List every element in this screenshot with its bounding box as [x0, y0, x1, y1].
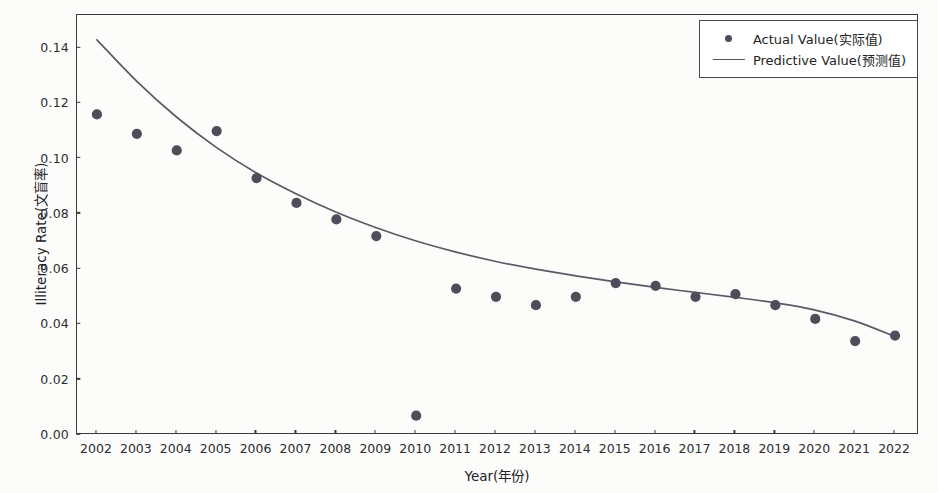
x-axis-tick-mark [335, 430, 336, 434]
data-point [92, 109, 102, 119]
x-axis-label: Year(年份) [76, 465, 918, 485]
data-point [850, 336, 860, 346]
x-axis-tick: 2005 [200, 434, 232, 456]
x-axis-tick: 2013 [519, 434, 551, 456]
x-axis-tick-label: 2011 [439, 441, 471, 456]
x-axis-tick: 2015 [599, 434, 631, 456]
data-point [611, 278, 621, 288]
x-axis-tick-mark [654, 430, 655, 434]
x-axis-tick-label: 2016 [639, 441, 671, 456]
data-point [531, 300, 541, 310]
x-axis-tick-label: 2017 [679, 441, 711, 456]
x-axis-tick: 2016 [639, 434, 671, 456]
x-axis-tick: 2003 [120, 434, 152, 456]
x-axis-tick-label: 2020 [798, 441, 830, 456]
x-axis-tick: 2009 [359, 434, 391, 456]
data-point [212, 126, 222, 136]
y-axis-tick-mark [76, 212, 80, 213]
x-axis-tick: 2008 [319, 434, 351, 456]
y-axis-tick-mark [76, 378, 80, 379]
x-axis-tick-mark [893, 430, 894, 434]
legend-label-actual-value: Actual Value(实际值) [749, 29, 883, 48]
chart-canvas [77, 15, 919, 435]
legend-label-predictive-value: Predictive Value(预测值) [749, 50, 906, 69]
y-axis-tick-mark [76, 157, 80, 158]
data-point [571, 292, 581, 302]
x-axis-tick-label: 2019 [758, 441, 790, 456]
data-point [690, 292, 700, 302]
x-axis-tick: 2010 [399, 434, 431, 456]
x-axis-tick: 2002 [80, 434, 112, 456]
line-marker-icon [709, 59, 749, 61]
x-axis-tick: 2004 [160, 434, 192, 456]
data-point [491, 292, 501, 302]
data-point [810, 314, 820, 324]
data-point [172, 145, 182, 155]
x-axis-tick: 2007 [280, 434, 312, 456]
data-point [371, 231, 381, 241]
x-axis-tick: 2022 [878, 434, 910, 456]
x-axis-tick-mark [215, 430, 216, 434]
x-axis-tick-label: 2015 [599, 441, 631, 456]
x-axis-tick: 2011 [439, 434, 471, 456]
x-axis-tick-label: 2006 [240, 441, 272, 456]
x-axis-tick-label: 2018 [719, 441, 751, 456]
legend-item-actual-value: Actual Value(实际值) [709, 28, 906, 49]
legend-item-predictive-value: Predictive Value(预测值) [709, 49, 906, 70]
x-axis-tick: 2017 [679, 434, 711, 456]
chart-figure: 0.000.020.040.060.080.100.120.14 2002200… [0, 0, 938, 493]
x-axis-tick-mark [853, 430, 854, 434]
x-axis-tick-label: 2004 [160, 441, 192, 456]
x-axis-tick-label: 2022 [878, 441, 910, 456]
x-axis-tick: 2019 [758, 434, 790, 456]
actual-value-points [92, 109, 900, 420]
y-axis-tick-mark [76, 102, 80, 103]
x-axis-tick-mark [255, 430, 256, 434]
data-point [132, 129, 142, 139]
x-axis-tick-label: 2013 [519, 441, 551, 456]
x-axis-tick: 2006 [240, 434, 272, 456]
x-axis-tick-label: 2010 [399, 441, 431, 456]
x-axis-tick-mark [774, 430, 775, 434]
y-axis-label: Illiteracy Rate(文盲率) [30, 24, 50, 444]
y-axis-tick-mark [76, 268, 80, 269]
x-axis-tick: 2020 [798, 434, 830, 456]
x-axis-tick-label: 2014 [559, 441, 591, 456]
data-point [331, 214, 341, 224]
x-axis-tick-mark [295, 430, 296, 434]
x-axis-tick-mark [814, 430, 815, 434]
x-axis-tick-label: 2007 [280, 441, 312, 456]
data-point [651, 281, 661, 291]
x-axis-tick-mark [494, 430, 495, 434]
x-axis-tick-mark [694, 430, 695, 434]
scatter-marker-icon [709, 35, 749, 42]
x-axis-tick-mark [95, 430, 96, 434]
data-point [251, 173, 261, 183]
data-point [451, 283, 461, 293]
x-axis-tick-label: 2021 [838, 441, 870, 456]
data-point [890, 330, 900, 340]
x-axis-tick: 2014 [559, 434, 591, 456]
x-axis-tick-mark [375, 430, 376, 434]
x-axis-tick-mark [135, 430, 136, 434]
y-axis-tick-mark [76, 323, 80, 324]
x-axis-tick-mark [175, 430, 176, 434]
x-axis-tick-label: 2012 [479, 441, 511, 456]
x-axis-tick-mark [734, 430, 735, 434]
x-axis-tick-label: 2003 [120, 441, 152, 456]
x-axis-tick-mark [534, 430, 535, 434]
data-point [730, 289, 740, 299]
x-axis-tick-label: 2008 [319, 441, 351, 456]
data-point [291, 198, 301, 208]
x-axis-tick-label: 2005 [200, 441, 232, 456]
x-axis-tick-label: 2002 [80, 441, 112, 456]
x-axis-tick-mark [574, 430, 575, 434]
x-axis-tick: 2018 [719, 434, 751, 456]
x-axis-tick-label: 2009 [359, 441, 391, 456]
data-point [411, 411, 421, 421]
y-axis-tick-mark [76, 47, 80, 48]
x-axis-tick-mark [614, 430, 615, 434]
x-axis-tick-mark [415, 430, 416, 434]
data-point [770, 300, 780, 310]
x-axis-tick-mark [454, 430, 455, 434]
